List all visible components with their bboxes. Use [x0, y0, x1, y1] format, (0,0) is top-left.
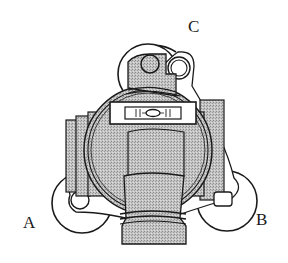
label-a: A: [23, 214, 35, 231]
upper-knob: [141, 55, 159, 73]
telescope-tube: [120, 129, 186, 244]
lug-b: [214, 192, 232, 206]
level-bubble: [146, 110, 160, 117]
instrument-diagram: [0, 0, 288, 263]
label-b: B: [256, 211, 267, 228]
spirit-level: [110, 102, 196, 124]
label-c: C: [188, 18, 199, 35]
